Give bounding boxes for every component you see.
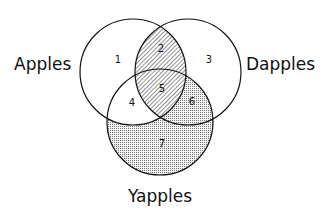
set-label-yapples: Yapples <box>127 186 192 206</box>
region-label-4: 4 <box>129 97 135 108</box>
region-label-3: 3 <box>206 54 212 65</box>
set-label-dapples: Dapples <box>246 54 315 74</box>
region-label-1: 1 <box>115 54 121 65</box>
region-label-5: 5 <box>159 83 165 94</box>
venn-diagram: Apples Dapples Yapples 1 2 3 4 5 6 7 <box>0 0 328 212</box>
region-label-2: 2 <box>158 43 164 54</box>
set-label-apples: Apples <box>14 54 71 74</box>
region-label-6: 6 <box>189 96 195 107</box>
region-label-7: 7 <box>159 138 165 149</box>
